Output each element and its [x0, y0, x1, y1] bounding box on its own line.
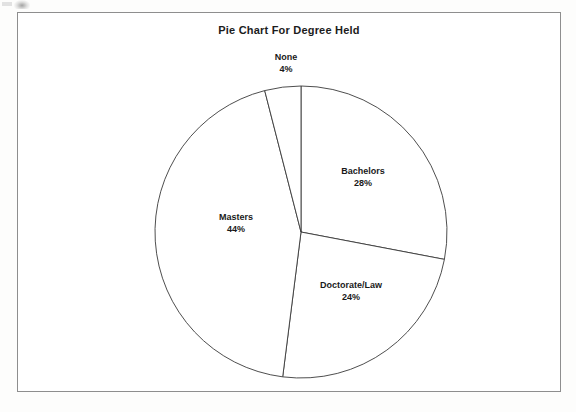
pie-slice-label-value: 44%	[219, 223, 253, 235]
pie-slice-label-value: 24%	[320, 291, 382, 303]
pie-slice-label: Masters44%	[219, 211, 253, 235]
pie-slice-label: Bachelors28%	[341, 165, 385, 189]
screenshot-root: Pie Chart For Degree Held Bachelors28%Do…	[0, 0, 576, 412]
pie-slice-label-value: 4%	[275, 63, 298, 75]
pie-slice-label: Doctorate/Law24%	[320, 279, 382, 303]
scan-artifact-icon	[14, 0, 30, 9]
pie-slice-group	[155, 86, 447, 378]
pie-chart: Bachelors28%Doctorate/Law24%Masters44%No…	[18, 13, 562, 393]
pie-slice-label-name: Doctorate/Law	[320, 280, 382, 290]
pie-slice-label: None4%	[275, 51, 298, 75]
pie-slice-label-name: Bachelors	[341, 166, 385, 176]
chart-frame: Pie Chart For Degree Held Bachelors28%Do…	[17, 12, 561, 392]
pie-slice-label-value: 28%	[341, 177, 385, 189]
pie-slice-label-name: None	[275, 52, 298, 62]
scan-artifact-secondary-icon	[2, 2, 12, 6]
pie-slice-label-name: Masters	[219, 212, 253, 222]
